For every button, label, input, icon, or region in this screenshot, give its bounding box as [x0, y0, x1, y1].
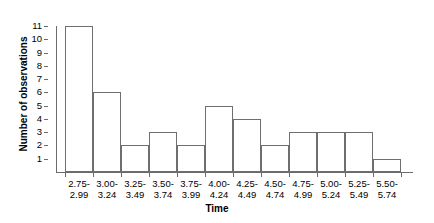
- x-axis-tick-mark: [401, 173, 402, 177]
- plot-area: [65, 26, 401, 172]
- y-axis-tick-label: 8: [37, 60, 42, 72]
- x-axis-tick-label: 5.50- 5.74: [372, 179, 402, 200]
- y-axis-tick-label: 9: [37, 47, 42, 59]
- histogram-bar: [233, 119, 261, 172]
- x-axis-tick-label: 3.50- 3.74: [148, 179, 178, 200]
- histogram-bar: [317, 132, 345, 172]
- y-axis-tick-mark: [44, 119, 48, 120]
- histogram-bar: [93, 92, 121, 172]
- x-axis-tick-mark: [373, 173, 374, 177]
- x-axis-tick-label: 3.75- 3.99: [176, 179, 206, 200]
- x-axis-tick-label: 4.00- 4.24: [204, 179, 234, 200]
- histogram-bar: [149, 132, 177, 172]
- x-axis-tick-label: 4.50- 4.74: [260, 179, 290, 200]
- x-axis-tick-mark: [65, 173, 66, 177]
- x-axis-tick-label: 3.25- 3.49: [120, 179, 150, 200]
- histogram-bar: [289, 132, 317, 172]
- x-axis-tick-mark: [317, 173, 318, 177]
- y-axis-tick-mark: [44, 145, 48, 146]
- y-axis-tick-label: 2: [37, 139, 42, 151]
- y-axis-tick-mark: [44, 26, 48, 27]
- x-axis-tick-mark: [345, 173, 346, 177]
- y-axis-tick-mark: [44, 132, 48, 133]
- histogram-bar: [177, 145, 205, 172]
- x-axis-tick-label: 2.75- 2.99: [64, 179, 94, 200]
- x-axis-tick-mark: [93, 173, 94, 177]
- x-axis-tick-mark: [177, 173, 178, 177]
- y-axis-line: [56, 26, 57, 173]
- x-axis-line: [56, 172, 413, 173]
- y-axis-tick-mark: [44, 53, 48, 54]
- y-axis-tick-mark: [44, 79, 48, 80]
- histogram-bar: [345, 132, 373, 172]
- x-axis-tick-label: 3.00- 3.24: [92, 179, 122, 200]
- y-axis-tick-label: 1: [37, 153, 42, 165]
- x-axis-tick-mark: [289, 173, 290, 177]
- y-axis-tick-mark: [44, 159, 48, 160]
- x-axis-title: Time: [0, 203, 434, 214]
- y-axis-tick-label: 5: [37, 100, 42, 112]
- x-axis-tick-label: 5.00- 5.24: [316, 179, 346, 200]
- histogram-bar: [121, 145, 149, 172]
- x-axis-tick-mark: [149, 173, 150, 177]
- y-axis-tick-label: 4: [37, 113, 42, 125]
- histogram-bar: [65, 26, 93, 172]
- y-axis-tick-mark: [44, 92, 48, 93]
- y-axis-tick-label: 3: [37, 126, 42, 138]
- histogram-figure: Number of observations 1234567891011 Tim…: [0, 0, 434, 223]
- y-axis-tick-labels: 1234567891011: [28, 0, 50, 223]
- y-axis-tick-label: 7: [37, 73, 42, 85]
- x-axis-tick-label: 5.25- 5.49: [344, 179, 374, 200]
- histogram-bar: [205, 106, 233, 172]
- x-axis-tick-mark: [121, 173, 122, 177]
- x-axis-tick-mark: [233, 173, 234, 177]
- x-axis-tick-mark: [205, 173, 206, 177]
- y-axis-tick-label: 6: [37, 86, 42, 98]
- y-axis-tick-label: 10: [31, 33, 42, 45]
- x-axis-tick-mark: [261, 173, 262, 177]
- histogram-bar: [261, 145, 289, 172]
- y-axis-tick-mark: [44, 106, 48, 107]
- y-axis-tick-mark: [44, 66, 48, 67]
- histogram-bar: [373, 159, 401, 172]
- x-axis-tick-label: 4.75- 4.99: [288, 179, 318, 200]
- y-axis-tick-mark: [44, 39, 48, 40]
- y-axis-tick-label: 11: [32, 20, 42, 32]
- x-axis-tick-label: 4.25- 4.49: [232, 179, 262, 200]
